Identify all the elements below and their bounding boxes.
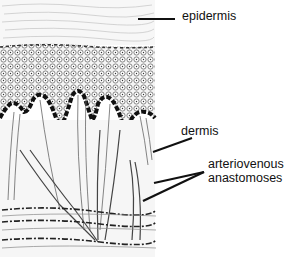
label-epidermis: epidermis	[182, 9, 236, 23]
anastomoses-leader-line-1	[154, 172, 204, 183]
dermis-leader-line	[153, 138, 192, 152]
label-dermis: dermis	[181, 124, 219, 138]
skin-cross-section-diagram: epidermis dermis arteriovenous anastomos…	[0, 0, 287, 257]
skin-illustration	[0, 0, 287, 257]
label-anastomoses: anastomoses	[208, 171, 282, 185]
stratum-corneum	[0, 0, 155, 45]
label-arteriovenous: arteriovenous	[208, 157, 284, 171]
